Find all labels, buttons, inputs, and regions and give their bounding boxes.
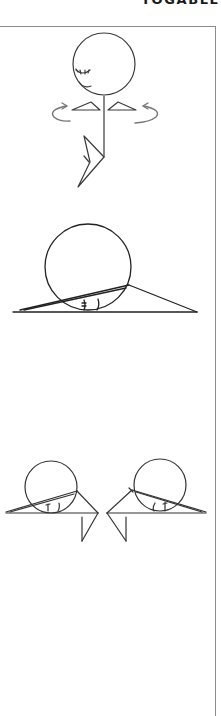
right-shoulder bbox=[108, 102, 136, 110]
smile-icon bbox=[79, 82, 91, 87]
figure-pair-right bbox=[107, 459, 206, 541]
left-shoulder bbox=[72, 102, 100, 110]
bent-leg bbox=[78, 136, 104, 187]
figure-standing-twist bbox=[72, 33, 136, 187]
body-circle bbox=[45, 224, 131, 310]
rotation-arrows bbox=[53, 103, 158, 123]
figure-side-lying bbox=[13, 224, 197, 312]
rotate-left-icon bbox=[53, 106, 71, 121]
figure-pair-left bbox=[6, 461, 98, 541]
